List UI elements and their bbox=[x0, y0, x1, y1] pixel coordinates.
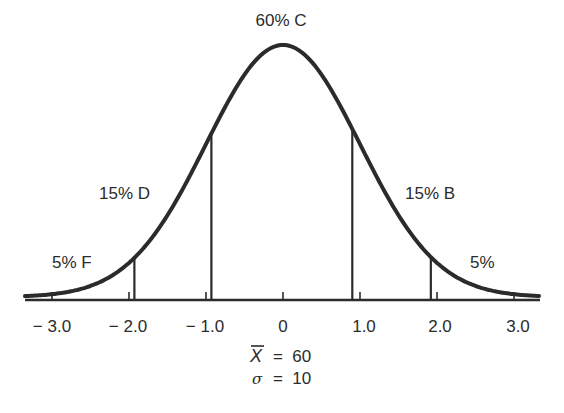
tick-label-neg3: − 3.0 bbox=[33, 317, 71, 336]
bell-curve bbox=[25, 45, 539, 296]
region-label-c: 60% C bbox=[255, 11, 306, 30]
sd-symbol: σ bbox=[252, 370, 263, 388]
sd-value: = 10 bbox=[273, 369, 311, 388]
tick-label-3: 3.0 bbox=[506, 317, 530, 336]
mean-value: = 60 bbox=[273, 347, 311, 366]
tick-label-neg1: − 1.0 bbox=[186, 317, 224, 336]
region-label-d: 15% D bbox=[99, 184, 150, 203]
mean-annotation: X = 60 bbox=[249, 346, 311, 366]
region-label-a: 5% bbox=[470, 253, 495, 272]
tick-label-neg2: − 2.0 bbox=[109, 317, 147, 336]
tick-label-0: 0 bbox=[278, 317, 287, 336]
sd-annotation: σ = 10 bbox=[252, 369, 311, 388]
tick-label-1: 1.0 bbox=[352, 317, 376, 336]
region-label-b: 15% B bbox=[405, 184, 455, 203]
region-label-f: 5% F bbox=[52, 253, 92, 272]
mean-symbol: X bbox=[249, 346, 263, 366]
normal-distribution-chart: − 3.0 − 2.0 − 1.0 0 1.0 2.0 3.0 60% C 15… bbox=[0, 0, 564, 413]
region-dividers bbox=[134, 129, 430, 300]
tick-label-2: 2.0 bbox=[428, 317, 452, 336]
